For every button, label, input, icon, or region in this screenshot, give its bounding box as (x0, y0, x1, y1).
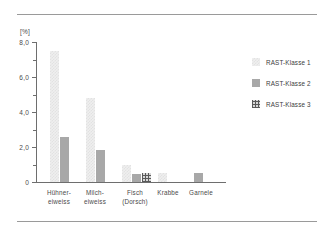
bar (50, 51, 59, 182)
legend-label: RAST-Klasse 2 (266, 80, 311, 87)
y-tick-label: 0 (5, 179, 29, 186)
legend-item[interactable]: RAST-Klasse 2 (252, 79, 332, 100)
top-rule (17, 14, 317, 15)
chart-legend: RAST-Klasse 1RAST-Klasse 2RAST-Klasse 3 (252, 58, 332, 121)
y-tick-label: 2,0 (5, 144, 29, 151)
y-axis-tick-labels: 8,06,04,02,00 (3, 0, 29, 232)
bar (86, 98, 95, 182)
chart-figure: [%] 8,06,04,02,00 Hühner- eiweissMilch- … (0, 0, 333, 232)
bar (142, 173, 151, 182)
y-tick-label: 4,0 (5, 109, 29, 116)
y-tick-label: 6,0 (5, 74, 29, 81)
legend-swatch-icon (252, 79, 260, 87)
legend-label: RAST-Klasse 3 (266, 101, 311, 108)
legend-item[interactable]: RAST-Klasse 3 (252, 100, 332, 121)
legend-label: RAST-Klasse 1 (266, 59, 311, 66)
bar (96, 150, 105, 182)
x-axis-line (36, 182, 226, 183)
legend-swatch-icon (252, 100, 260, 108)
legend-swatch-icon (252, 58, 260, 66)
legend-item[interactable]: RAST-Klasse 1 (252, 58, 332, 79)
bar (122, 165, 131, 182)
y-tick-label: 8,0 (5, 39, 29, 46)
bar (132, 174, 141, 182)
bar (194, 173, 203, 182)
plot-area (36, 42, 221, 182)
bar (60, 137, 69, 183)
x-category-label: Garnele (177, 189, 225, 198)
bar (158, 173, 167, 182)
bottom-rule (17, 221, 317, 222)
